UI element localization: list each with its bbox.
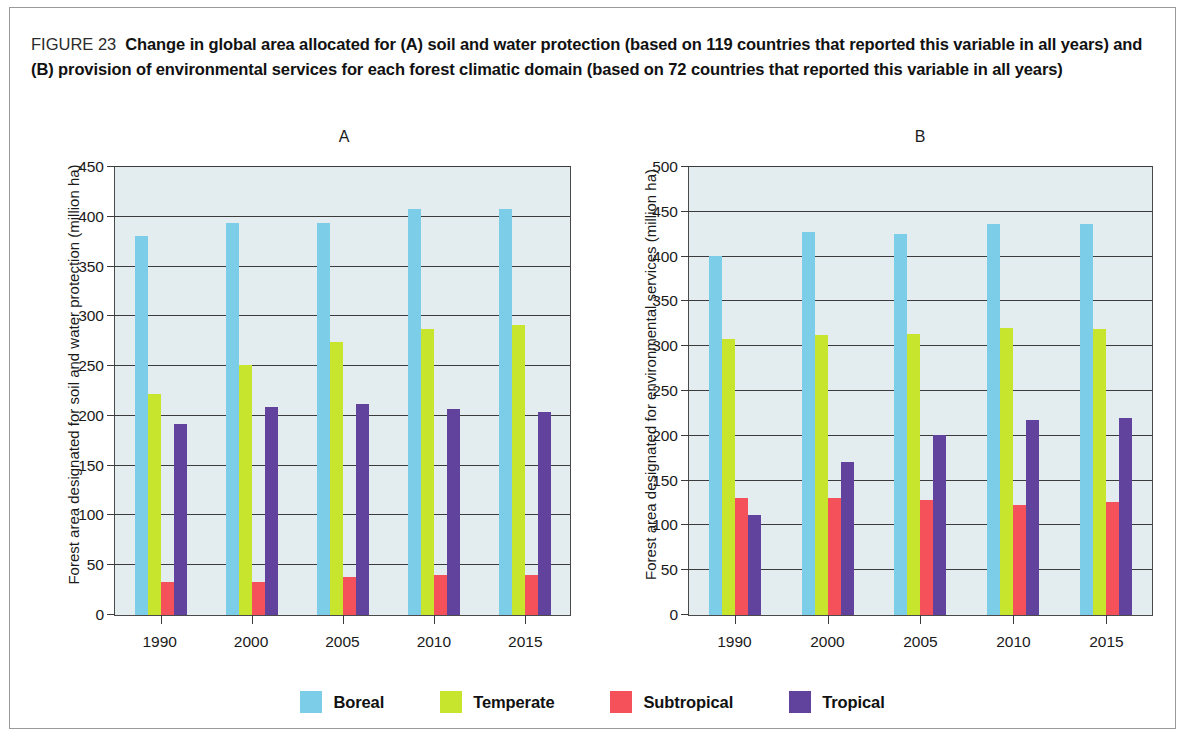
bar-subtropical: [525, 575, 538, 615]
x-axis-tick: [735, 615, 736, 624]
y-axis-tick-label: 400: [78, 208, 104, 226]
y-axis-tick: [681, 435, 689, 436]
bar-group: [226, 167, 278, 615]
bar-temperate: [907, 334, 920, 615]
bar-temperate: [1000, 328, 1013, 615]
bar-subtropical: [434, 575, 447, 615]
bar-group: [709, 167, 761, 615]
y-axis-tick-label: 250: [652, 382, 678, 400]
y-axis-tick-label: 400: [652, 248, 678, 266]
bar-boreal: [1080, 224, 1093, 615]
y-axis-tick: [107, 365, 115, 366]
y-axis-tick: [107, 465, 115, 466]
x-axis-tick: [828, 615, 829, 624]
y-axis-tick: [107, 564, 115, 565]
bar-subtropical: [252, 582, 265, 615]
bar-temperate: [815, 335, 828, 615]
y-axis-tick-label: 200: [652, 427, 678, 445]
legend-swatch-icon: [300, 691, 322, 713]
y-axis-tick-label: 100: [78, 506, 104, 524]
bar-tropical: [538, 412, 551, 615]
chart-legend: BorealTemperateSubtropicalTropical: [10, 691, 1175, 713]
bar-tropical: [447, 409, 460, 615]
x-axis-label: 2000: [810, 633, 844, 651]
bar-subtropical: [1106, 502, 1119, 615]
y-axis-tick-label: 250: [78, 357, 104, 375]
x-axis-label: 2015: [508, 633, 542, 651]
x-axis-label: 2010: [417, 633, 451, 651]
legend-item-temperate: Temperate: [440, 691, 554, 713]
bar-subtropical: [1013, 505, 1026, 615]
x-axis-tick: [525, 615, 526, 624]
legend-label: Temperate: [473, 693, 554, 712]
y-axis-tick: [681, 256, 689, 257]
bar-tropical: [265, 407, 278, 615]
bar-temperate: [512, 325, 525, 615]
x-axis-tick: [1013, 615, 1014, 624]
plot-canvas-b: 050100150200250300350400450500: [688, 166, 1153, 616]
x-axis-labels-a: 19902000200520102015: [114, 633, 571, 651]
bar-group: [894, 167, 946, 615]
bar-temperate: [148, 394, 161, 615]
legend-item-subtropical: Subtropical: [610, 691, 733, 713]
y-axis-tick-label: 200: [78, 407, 104, 425]
bar-boreal: [987, 224, 1000, 615]
y-axis-tick: [107, 415, 115, 416]
y-axis-tick-label: 350: [652, 292, 678, 310]
y-axis-tick-label: 300: [652, 337, 678, 355]
legend-label: Tropical: [822, 693, 884, 712]
bar-boreal: [408, 209, 421, 615]
bar-subtropical: [920, 500, 933, 615]
bar-boreal: [709, 256, 722, 615]
y-axis-tick-label: 0: [95, 606, 104, 624]
y-axis-tick: [681, 345, 689, 346]
bar-boreal: [317, 223, 330, 615]
x-axis-tick: [1106, 615, 1107, 624]
bar-temperate: [421, 329, 434, 615]
y-axis-tick: [681, 166, 689, 167]
legend-swatch-icon: [440, 691, 462, 713]
legend-item-tropical: Tropical: [789, 691, 884, 713]
figure-number: FIGURE 23: [31, 35, 116, 53]
bar-tropical: [933, 435, 946, 615]
y-axis-tick: [681, 300, 689, 301]
y-axis-tick-label: 450: [652, 203, 678, 221]
y-axis-tick-label: 0: [669, 606, 678, 624]
y-axis-tick-label: 50: [87, 556, 104, 574]
y-axis-tick-label: 450: [78, 158, 104, 176]
y-axis-tick: [107, 166, 115, 167]
y-axis-tick: [681, 569, 689, 570]
y-axis-tick-label: 50: [661, 561, 678, 579]
y-axis-tick: [681, 524, 689, 525]
figure-caption-text: Change in global area allocated for (A) …: [31, 35, 1142, 78]
y-axis-tick-label: 150: [78, 457, 104, 475]
y-axis-tick: [107, 315, 115, 316]
x-axis-label: 2005: [325, 633, 359, 651]
bar-group: [317, 167, 369, 615]
x-axis-tick: [252, 615, 253, 624]
y-axis-tick: [681, 614, 689, 615]
bar-boreal: [894, 234, 907, 615]
bar-group: [408, 167, 460, 615]
bar-subtropical: [735, 498, 748, 615]
y-axis-tick: [107, 614, 115, 615]
bar-groups: [115, 167, 570, 615]
y-axis-tick-label: 150: [652, 472, 678, 490]
y-axis-tick: [681, 211, 689, 212]
bar-group: [1080, 167, 1132, 615]
y-axis-tick: [107, 514, 115, 515]
x-axis-label: 1990: [142, 633, 176, 651]
bar-boreal: [802, 232, 815, 615]
panel-label-b: B: [605, 128, 1185, 146]
legend-label: Boreal: [333, 693, 384, 712]
y-axis-tick: [107, 216, 115, 217]
x-axis-tick: [343, 615, 344, 624]
bar-group: [987, 167, 1039, 615]
x-axis-tick: [161, 615, 162, 624]
bar-boreal: [499, 209, 512, 615]
y-axis-tick-label: 500: [652, 158, 678, 176]
legend-swatch-icon: [610, 691, 632, 713]
y-axis-tick-label: 350: [78, 258, 104, 276]
legend-swatch-icon: [789, 691, 811, 713]
figure-frame: FIGURE 23 Change in global area allocate…: [9, 7, 1176, 729]
